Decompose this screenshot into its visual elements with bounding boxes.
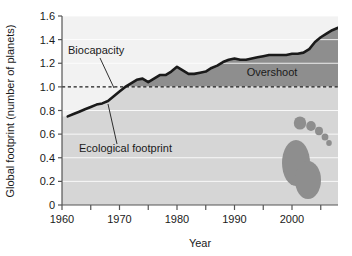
y-axis-tick-label: 0.6 — [40, 128, 55, 140]
x-axis-tick-label: 2000 — [280, 213, 304, 225]
chart-figure: 00.20.40.60.81.01.21.41.6 19601970198019… — [0, 0, 352, 256]
y-axis-ticks: 00.20.40.60.81.01.21.41.6 — [40, 10, 62, 211]
x-axis-tick-label: 1990 — [222, 213, 246, 225]
y-axis-tick-label: 1.2 — [40, 57, 55, 69]
ecological-footprint-chart: 00.20.40.60.81.01.21.41.6 19601970198019… — [0, 0, 352, 256]
y-axis-tick-label: 1.4 — [40, 34, 55, 46]
x-axis-tick-label: 1960 — [50, 213, 74, 225]
y-axis-tick-label: 0.8 — [40, 105, 55, 117]
y-axis-tick-label: 0.4 — [40, 152, 55, 164]
y-axis-tick-label: 0 — [49, 199, 55, 211]
ecological-footprint-annotation-label: Ecological footprint — [79, 142, 172, 154]
y-axis-tick-label: 1.0 — [40, 81, 55, 93]
x-axis-tick-label: 1970 — [107, 213, 131, 225]
y-axis-tick-label: 1.6 — [40, 10, 55, 22]
x-axis-title: Year — [189, 237, 212, 249]
overshoot-annotation-label: Overshoot — [247, 66, 298, 78]
y-axis-title: Global footprint (number of planets) — [4, 24, 16, 197]
x-axis-tick-label: 1980 — [165, 213, 189, 225]
biocapacity-annotation-label: Biocapacity — [68, 44, 125, 56]
y-axis-tick-label: 0.2 — [40, 175, 55, 187]
x-axis-ticks: 19601970198019902000 — [50, 205, 321, 225]
